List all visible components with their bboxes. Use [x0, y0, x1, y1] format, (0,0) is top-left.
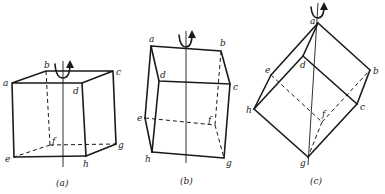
vertex-label-b: b	[220, 38, 226, 48]
vertex-label-f: f	[51, 136, 57, 146]
vertex-label-d: d	[300, 60, 306, 70]
vertex-label-g: g	[118, 140, 124, 150]
vertex-label-a: a	[310, 16, 315, 26]
vertex-label-b: b	[373, 66, 379, 76]
panel-c: a b c d e f g h (c)	[246, 3, 379, 186]
vertex-label-f: f	[207, 115, 213, 125]
panel-b: a b c d e f g h (b)	[137, 31, 238, 186]
caption-c: (c)	[310, 176, 323, 186]
vertex-label-d: d	[73, 86, 79, 96]
vertex-label-h: h	[145, 154, 151, 164]
vertex-label-e: e	[265, 65, 270, 75]
vertex-label-c: c	[116, 67, 121, 77]
caption-b: (b)	[180, 176, 193, 186]
vertex-label-a: a	[149, 34, 154, 44]
vertex-label-g: g	[226, 158, 232, 168]
vertex-label-b: b	[44, 60, 50, 70]
panel-a: a b c d e f g h (a)	[3, 60, 124, 188]
vertex-label-e: e	[137, 113, 142, 123]
vertex-label-c: c	[360, 102, 365, 112]
vertex-label-h: h	[246, 105, 252, 115]
vertex-label-f: f	[321, 109, 327, 119]
vertex-label-c: c	[233, 82, 238, 92]
vertex-label-e: e	[5, 154, 10, 164]
vertex-label-a: a	[3, 78, 8, 88]
vertex-label-d: d	[160, 70, 166, 80]
caption-a: (a)	[56, 178, 69, 188]
cube-rotation-diagram: a b c d e f g h (a) a b c d e f g h (b)	[0, 0, 385, 194]
vertex-label-h: h	[83, 159, 89, 169]
vertex-label-g: g	[300, 158, 306, 168]
rotation-arrow-icon	[179, 34, 192, 47]
